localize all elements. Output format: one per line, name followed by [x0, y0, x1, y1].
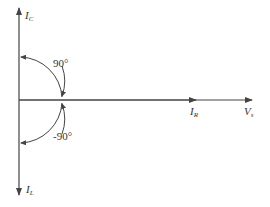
vs-label: Vs — [244, 106, 253, 119]
phasor-diagram — [0, 0, 270, 207]
ic-label: IC — [25, 10, 33, 23]
angle-label-minus-90: -90° — [53, 131, 72, 142]
angle-label-90: 90° — [53, 58, 68, 69]
il-label: IL — [26, 184, 34, 197]
ir-label: IR — [190, 106, 198, 119]
